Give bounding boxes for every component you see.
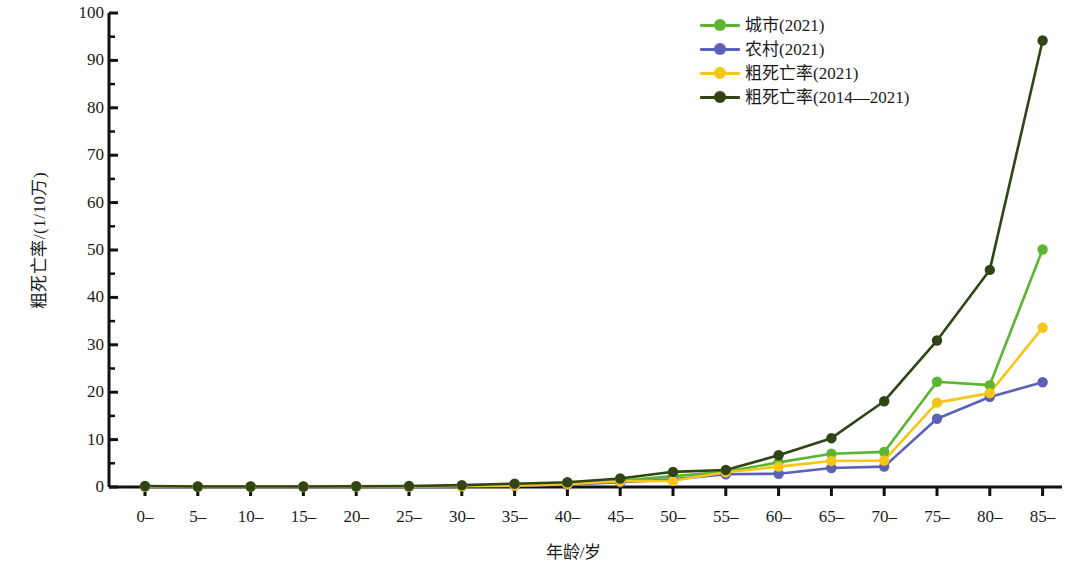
series-point [351, 481, 361, 491]
series-point [985, 265, 995, 275]
x-axis-title-text: 年龄/岁 [546, 543, 602, 562]
x-tick-label: 10– [221, 508, 281, 525]
x-tick-label: 80– [960, 508, 1020, 525]
legend-swatch [700, 90, 740, 104]
legend-label: 粗死亡率(2014—2021) [745, 89, 909, 106]
x-tick-label: 85– [1013, 508, 1067, 525]
legend-swatch [700, 18, 740, 32]
series-point [932, 414, 942, 424]
chart-legend: 城市(2021)农村(2021)粗死亡率(2021)粗死亡率(2014—2021… [700, 13, 909, 109]
series-point [879, 455, 889, 465]
x-tick-label: 40– [537, 508, 597, 525]
legend-item[interactable]: 粗死亡率(2021) [700, 61, 909, 85]
series-point [404, 481, 414, 491]
series-point [879, 396, 889, 406]
series-point [932, 397, 942, 407]
series-point [140, 481, 150, 491]
legend-swatch [700, 66, 740, 80]
x-tick-label: 30– [432, 508, 492, 525]
series-point [668, 467, 678, 477]
series-line [145, 328, 1043, 487]
series-point [773, 461, 783, 471]
chart-container: 粗死亡率/(1/10万) 1009080706050403020100 0–5–… [0, 0, 1067, 571]
series-point [826, 456, 836, 466]
series-point [985, 388, 995, 398]
legend-marker-dot [714, 91, 726, 103]
legend-item[interactable]: 城市(2021) [700, 13, 909, 37]
x-tick-label: 5– [168, 508, 228, 525]
series-point [193, 481, 203, 491]
series-point [668, 476, 678, 486]
legend-item[interactable]: 粗死亡率(2014—2021) [700, 85, 909, 109]
series-point [509, 478, 519, 488]
x-tick-label: 70– [854, 508, 914, 525]
legend-marker-dot [714, 43, 726, 55]
legend-swatch [700, 42, 740, 56]
series-point [1037, 323, 1047, 333]
series-point [721, 465, 731, 475]
x-tick-label: 35– [485, 508, 545, 525]
x-tick-label: 75– [907, 508, 967, 525]
series-point [1037, 35, 1047, 45]
x-tick-label: 50– [643, 508, 703, 525]
series-point [562, 477, 572, 487]
x-tick-label: 20– [326, 508, 386, 525]
x-tick-label: 55– [696, 508, 756, 525]
series-point [245, 481, 255, 491]
x-tick-label: 25– [379, 508, 439, 525]
series-point [932, 335, 942, 345]
legend-marker-dot [714, 19, 726, 31]
series-point [773, 450, 783, 460]
series-point [1037, 377, 1047, 387]
x-axis-title: 年龄/岁 [0, 538, 1067, 563]
x-tick-label: 65– [801, 508, 861, 525]
series-point [615, 473, 625, 483]
series-point [826, 433, 836, 443]
series-point [932, 377, 942, 387]
legend-label: 粗死亡率(2021) [745, 65, 858, 82]
series-point [1037, 244, 1047, 254]
legend-label: 农村(2021) [745, 41, 824, 58]
x-tick-label: 60– [749, 508, 809, 525]
x-tick-label: 15– [273, 508, 333, 525]
x-tick-label: 0– [115, 508, 175, 525]
x-tick-label: 45– [590, 508, 650, 525]
legend-label: 城市(2021) [745, 17, 824, 34]
series-line [145, 250, 1043, 487]
legend-marker-dot [714, 67, 726, 79]
legend-item[interactable]: 农村(2021) [700, 37, 909, 61]
series-point [298, 481, 308, 491]
series-point [457, 480, 467, 490]
